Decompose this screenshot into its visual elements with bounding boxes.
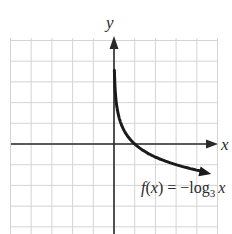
y-axis-arrow-icon [110, 36, 119, 49]
x-axis-label: x [220, 135, 229, 154]
x-axis-arrow-icon [206, 140, 218, 149]
function-label: f(x) = −log3x [141, 179, 225, 199]
y-axis-label: y [104, 13, 114, 32]
curve-arrow-icon [198, 167, 211, 177]
function-curve [114, 70, 203, 171]
graph: x y f(x) = −log3x [0, 0, 232, 234]
